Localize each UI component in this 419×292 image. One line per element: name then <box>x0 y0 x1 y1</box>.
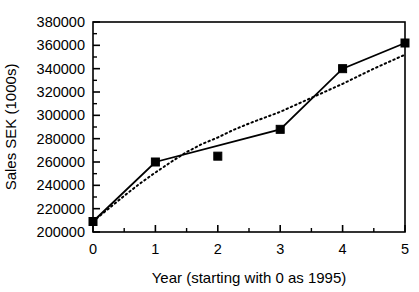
data-point-marker <box>151 158 159 166</box>
data-point-marker <box>214 152 222 160</box>
sales-solid-line <box>93 43 405 222</box>
chart-figure: 2000002200002400002600002800003000003200… <box>0 0 419 292</box>
sales-line-chart: 2000002200002400002600002800003000003200… <box>0 0 419 292</box>
x-axis-title: Year (starting with 0 as 1995) <box>152 269 347 286</box>
x-tick-label: 2 <box>214 241 222 257</box>
y-tick-label: 240000 <box>37 177 85 193</box>
x-tick-label: 3 <box>276 241 284 257</box>
y-axis-title: Sales SEK (1000s) <box>2 64 19 191</box>
plot-area-border <box>93 22 405 232</box>
y-axis-tick-labels: 2000002200002400002600002800003000003200… <box>37 14 85 240</box>
sales-line-path <box>93 43 405 222</box>
x-tick-label: 1 <box>151 241 159 257</box>
x-axis-tick-labels: 012345 <box>89 241 409 257</box>
data-point-marker <box>401 39 409 47</box>
y-tick-label: 320000 <box>37 84 85 100</box>
y-tick-label: 380000 <box>37 14 85 30</box>
y-tick-label: 260000 <box>37 154 85 170</box>
y-tick-label: 360000 <box>37 37 85 53</box>
y-tick-label: 340000 <box>37 61 85 77</box>
plot-frame <box>93 22 405 232</box>
y-tick-label: 220000 <box>37 201 85 217</box>
y-tick-label: 280000 <box>37 131 85 147</box>
data-point-marker <box>276 125 284 133</box>
x-tick-label: 4 <box>339 241 347 257</box>
sales-square-markers <box>89 39 409 226</box>
x-tick-label: 5 <box>401 241 409 257</box>
y-tick-label: 200000 <box>37 224 85 240</box>
y-tick-label: 300000 <box>37 107 85 123</box>
data-point-marker <box>339 65 347 73</box>
data-point-marker <box>89 218 97 226</box>
x-tick-label: 0 <box>89 241 97 257</box>
